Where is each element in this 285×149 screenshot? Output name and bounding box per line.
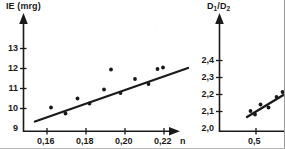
chart-left-y-axis-arrow: [19, 13, 28, 24]
figure-container: IE (mrg) 13 12 11 10 9 0,16 0,18 0,20 0,…: [0, 0, 285, 149]
chart-left-trend-line: [35, 68, 188, 122]
data-point: [275, 95, 279, 99]
data-point: [147, 82, 151, 86]
chart-right-trend-line: [247, 94, 285, 117]
data-point: [281, 90, 285, 94]
chart-left-canvas: [0, 0, 190, 149]
chart-right-canvas: [190, 0, 285, 149]
data-point: [49, 106, 53, 110]
data-point: [161, 66, 165, 70]
chart-left-x-axis-arrow: [169, 127, 180, 136]
data-point: [259, 103, 263, 107]
chart-right-d1-d2: D1/D2 2,4 2,3 2,2 2,1 2,0 0,5: [190, 0, 285, 149]
data-point: [133, 77, 137, 81]
data-point: [253, 113, 257, 117]
data-point: [102, 88, 106, 92]
chart-left-data-points: [49, 66, 165, 116]
data-point: [249, 109, 253, 113]
data-point: [76, 97, 80, 101]
chart-right-y-axis-arrow: [215, 13, 224, 24]
chart-left-ie-vs-n: IE (mrg) 13 12 11 10 9 0,16 0,18 0,20 0,…: [0, 0, 190, 149]
data-point: [156, 67, 160, 71]
data-point: [109, 68, 113, 72]
data-point: [119, 91, 123, 95]
data-point: [267, 106, 271, 110]
data-point: [88, 102, 92, 106]
data-point: [64, 112, 68, 116]
